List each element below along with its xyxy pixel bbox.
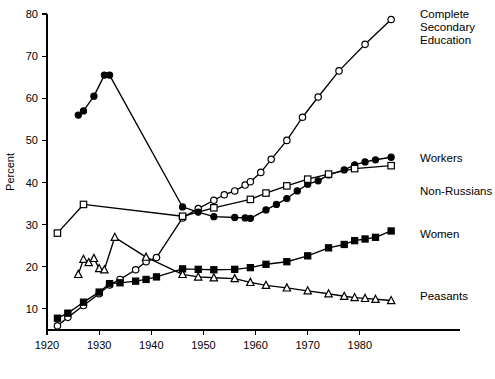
x-tick-label: 1940 — [139, 339, 163, 351]
data-point-filled-square-marker — [117, 280, 123, 286]
series-workers — [75, 72, 394, 221]
data-point-open-square-marker — [80, 201, 86, 207]
data-point-filled-square-marker — [54, 315, 60, 321]
percent-trends-line-chart: 1020304050607080192019301940195019601970… — [0, 0, 495, 379]
data-point-open-circle-marker — [362, 41, 368, 47]
data-point-open-square-marker — [211, 205, 217, 211]
data-point-filled-square-marker — [211, 267, 217, 273]
data-point-filled-circle-marker — [263, 207, 269, 213]
y-tick-label: 70 — [26, 50, 38, 62]
series-label-complete-secondary-education: CompleteSecondaryEducation — [420, 8, 475, 46]
data-point-open-square-marker — [305, 176, 311, 182]
series-line — [78, 75, 391, 218]
y-axis-title: Percent — [4, 153, 16, 191]
data-point-open-square-marker — [325, 171, 331, 177]
data-point-filled-square-marker — [325, 245, 331, 251]
data-point-filled-circle-marker — [362, 159, 368, 165]
y-tick-label: 40 — [26, 177, 38, 189]
data-point-filled-circle-marker — [294, 188, 300, 194]
data-point-filled-circle-marker — [315, 178, 321, 184]
data-point-open-square-marker — [284, 183, 290, 189]
data-point-open-circle-marker — [153, 254, 159, 260]
data-point-open-square-marker — [247, 196, 253, 202]
data-point-open-circle-marker — [232, 188, 238, 194]
data-point-filled-square-marker — [247, 265, 253, 271]
data-point-filled-square-marker — [80, 299, 86, 305]
data-point-filled-square-marker — [341, 241, 347, 247]
data-point-filled-square-marker — [143, 276, 149, 282]
data-point-filled-square-marker — [388, 228, 394, 234]
x-tick-label: 1980 — [348, 339, 372, 351]
data-point-open-circle-marker — [258, 169, 264, 175]
x-tick-label: 1960 — [243, 339, 267, 351]
data-point-filled-square-marker — [133, 278, 139, 284]
series-line — [57, 166, 391, 233]
y-tick-label: 30 — [26, 219, 38, 231]
data-point-open-triangle-marker — [111, 233, 118, 240]
data-point-filled-circle-marker — [284, 195, 290, 201]
series-label-peasants: Peasants — [420, 290, 468, 302]
series-line — [57, 19, 391, 325]
data-point-open-circle-marker — [299, 114, 305, 120]
data-point-filled-square-marker — [232, 266, 238, 272]
data-point-open-circle-marker — [336, 68, 342, 74]
y-tick-label: 50 — [26, 134, 38, 146]
data-point-filled-circle-marker — [247, 215, 253, 221]
data-point-filled-square-marker — [106, 281, 112, 287]
y-tick-label: 10 — [26, 303, 38, 315]
y-tick-label: 60 — [26, 92, 38, 104]
data-point-open-circle-marker — [211, 197, 217, 203]
data-point-filled-square-marker — [263, 261, 269, 267]
data-point-open-circle-marker — [247, 178, 253, 184]
data-point-filled-square-marker — [284, 259, 290, 265]
data-point-open-square-marker — [263, 190, 269, 196]
data-point-open-circle-marker — [284, 137, 290, 143]
data-point-open-circle-marker — [388, 16, 394, 22]
data-point-open-square-marker — [351, 165, 357, 171]
series-labels: CompleteSecondaryEducationWorkersNon-Rus… — [420, 8, 492, 302]
data-point-open-circle-marker — [268, 156, 274, 162]
data-point-filled-circle-marker — [372, 157, 378, 163]
data-point-filled-circle-marker — [211, 214, 217, 220]
data-point-open-square-marker — [179, 213, 185, 219]
data-point-open-triangle-marker — [80, 255, 87, 262]
data-point-filled-circle-marker — [232, 214, 238, 220]
series-label-non-russians: Non-Russians — [420, 185, 492, 197]
y-tick-label: 80 — [26, 8, 38, 20]
data-point-filled-circle-marker — [75, 112, 81, 118]
x-tick-label: 1920 — [35, 339, 59, 351]
x-tick-label: 1970 — [295, 339, 319, 351]
data-point-filled-square-marker — [352, 238, 358, 244]
x-tick-label: 1930 — [87, 339, 111, 351]
data-point-open-triangle-marker — [90, 254, 97, 261]
data-point-filled-square-marker — [153, 274, 159, 280]
data-point-open-square-marker — [388, 162, 394, 168]
x-tick-label: 1950 — [191, 339, 215, 351]
data-point-open-circle-marker — [54, 323, 60, 329]
data-point-open-circle-marker — [132, 267, 138, 273]
data-point-filled-square-marker — [305, 253, 311, 259]
data-point-filled-circle-marker — [388, 154, 394, 160]
data-point-filled-square-marker — [96, 289, 102, 295]
y-tick-label: 20 — [26, 261, 38, 273]
data-point-filled-square-marker — [362, 236, 368, 242]
data-point-filled-circle-marker — [106, 72, 112, 78]
data-point-open-circle-marker — [315, 94, 321, 100]
data-point-open-triangle-marker — [142, 253, 149, 260]
data-point-open-square-marker — [54, 230, 60, 236]
data-series — [54, 16, 395, 329]
data-point-open-triangle-marker — [75, 270, 82, 277]
series-label-women: Women — [420, 228, 459, 240]
data-point-filled-square-marker — [195, 266, 201, 272]
series-non-russians — [54, 162, 394, 236]
data-point-filled-square-marker — [65, 310, 71, 316]
data-point-filled-circle-marker — [179, 204, 185, 210]
data-point-filled-square-marker — [372, 234, 378, 240]
data-point-open-circle-marker — [221, 192, 227, 198]
data-point-filled-circle-marker — [273, 201, 279, 207]
series-women — [54, 228, 394, 321]
series-label-workers: Workers — [420, 152, 463, 164]
data-point-filled-circle-marker — [91, 93, 97, 99]
chart-container: 1020304050607080192019301940195019601970… — [0, 0, 495, 379]
data-point-filled-circle-marker — [80, 108, 86, 114]
